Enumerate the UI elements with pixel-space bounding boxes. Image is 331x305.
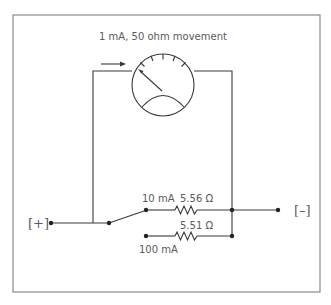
switch-contact-100ma[interactable] [144,234,148,238]
junction-node-bottom [230,234,234,238]
positive-terminal-node[interactable] [49,221,53,225]
shunt-10ma-value: 5.56 Ω [180,193,213,204]
range-100ma-label: 100 mA [139,244,178,255]
junction-node-top [230,208,234,212]
range-10ma-label: 10 mA [142,193,175,204]
shunt-100ma-value: 5.51 Ω [180,220,213,231]
ammeter-circuit-diagram: 1 mA, 50 ohm movement [0,0,331,305]
positive-terminal-label: [+] [28,216,49,231]
switch-pivot-node[interactable] [107,221,111,225]
meter-label: 1 mA, 50 ohm movement [99,31,227,42]
switch-contact-10ma[interactable] [144,208,148,212]
negative-terminal-label: [–] [294,203,311,218]
negative-terminal-node[interactable] [276,208,280,212]
